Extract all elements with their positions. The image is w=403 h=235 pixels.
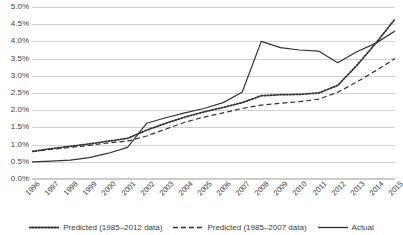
series-line xyxy=(32,19,395,151)
y-axis: 0.0%0.5%1.0%1.5%2.0%2.5%3.0%3.5%4.0%4.5%… xyxy=(0,0,32,186)
y-tick-label: 3.0% xyxy=(11,72,29,80)
y-tick-label: 0.5% xyxy=(11,158,29,166)
legend-item[interactable]: Predicted (1985–2007 data) xyxy=(173,223,306,232)
y-tick-label: 3.5% xyxy=(11,55,29,63)
chart-legend: Predicted (1985–2012 data)Predicted (198… xyxy=(0,219,403,235)
plot-area xyxy=(32,7,395,179)
x-axis: 1996199719981999200020012002200320042005… xyxy=(32,180,395,218)
legend-item[interactable]: Actual xyxy=(318,223,374,232)
y-tick-label: 1.0% xyxy=(11,141,29,149)
y-tick-label: 0.0% xyxy=(11,175,29,183)
legend-item[interactable]: Predicted (1985–2012 data) xyxy=(29,223,162,232)
legend-label: Predicted (1985–2007 data) xyxy=(207,223,306,232)
legend-swatch-dashed-icon xyxy=(173,224,203,231)
y-tick-label: 5.0% xyxy=(11,3,29,11)
y-tick-label: 4.0% xyxy=(11,37,29,45)
y-tick-label: 2.5% xyxy=(11,89,29,97)
legend-label: Predicted (1985–2012 data) xyxy=(63,223,162,232)
legend-label: Actual xyxy=(352,223,374,232)
y-tick-label: 2.0% xyxy=(11,106,29,114)
series-line xyxy=(32,31,395,162)
series-container xyxy=(32,7,395,179)
line-chart: 0.0%0.5%1.0%1.5%2.0%2.5%3.0%3.5%4.0%4.5%… xyxy=(0,0,403,235)
y-tick-label: 1.5% xyxy=(11,123,29,131)
legend-swatch-solid-icon xyxy=(318,224,348,231)
y-tick-label: 4.5% xyxy=(11,20,29,28)
legend-swatch-dotted-icon xyxy=(29,224,59,231)
